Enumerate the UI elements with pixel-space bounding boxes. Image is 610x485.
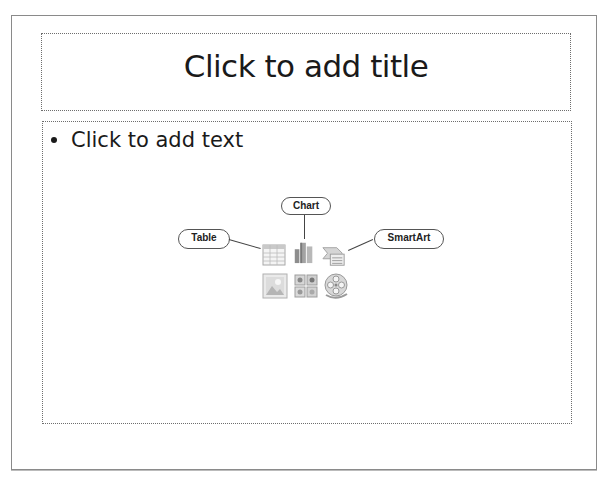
media-icon[interactable] (322, 273, 350, 301)
body-placeholder-text: Click to add text (71, 128, 243, 152)
body-placeholder[interactable]: Click to add text (42, 121, 572, 424)
smartart-icon[interactable] (322, 244, 346, 268)
bullet-dot (51, 137, 57, 143)
clip-art-icon[interactable] (294, 274, 318, 298)
chart-callout: Chart (281, 197, 331, 215)
chart-connector-line (304, 215, 305, 239)
table-callout: Table (178, 229, 230, 249)
title-placeholder-text: Click to add title (42, 48, 570, 84)
table-icon[interactable] (262, 243, 286, 267)
picture-icon[interactable] (262, 273, 288, 299)
title-placeholder[interactable]: Click to add title (41, 33, 571, 111)
chart-icon[interactable] (292, 240, 316, 264)
bullet-item: Click to add text (48, 128, 243, 152)
smartart-callout: SmartArt (374, 229, 444, 249)
